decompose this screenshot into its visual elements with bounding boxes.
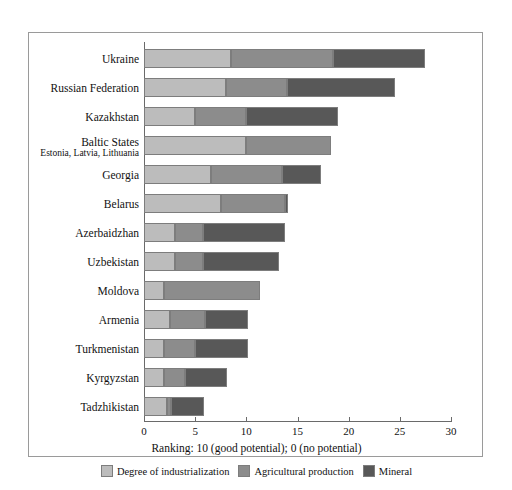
legend-swatch-icon xyxy=(363,465,375,477)
x-tick xyxy=(246,417,247,421)
bar-segment-min xyxy=(287,78,394,97)
x-axis-title: Ranking: 10 (good potential); 0 (no pote… xyxy=(29,442,484,454)
bar-segment-agr xyxy=(164,368,184,387)
x-tick xyxy=(349,417,350,421)
legend-label: Mineral xyxy=(379,466,412,477)
bar-row xyxy=(29,223,484,242)
bar-row xyxy=(29,281,484,300)
bar-segment-agr xyxy=(164,281,259,300)
x-tick-label: 0 xyxy=(131,425,157,437)
x-tick xyxy=(195,417,196,421)
chart-legend: Degree of industrializationAgricultural … xyxy=(29,465,484,477)
bar-segment-ind xyxy=(144,223,175,242)
bar-segment-min xyxy=(185,368,227,387)
legend-label: Agricultural production xyxy=(254,466,353,477)
bar-segment-ind xyxy=(144,107,195,126)
x-tick xyxy=(144,417,145,421)
bar-segment-agr xyxy=(211,165,283,184)
x-tick xyxy=(451,417,452,421)
bar-row xyxy=(29,136,484,155)
bar-row xyxy=(29,107,484,126)
bar-segment-ind xyxy=(144,136,246,155)
bar-segment-ind xyxy=(144,49,231,68)
bar-row xyxy=(29,49,484,68)
legend-item-min[interactable]: Mineral xyxy=(363,465,412,477)
bar-segment-agr xyxy=(231,49,333,68)
bar-segment-ind xyxy=(144,339,164,358)
bar-segment-min xyxy=(246,107,338,126)
x-tick-label: 15 xyxy=(285,425,311,437)
x-tick-label: 5 xyxy=(182,425,208,437)
bar-segment-min xyxy=(195,339,248,358)
bar-segment-min xyxy=(205,310,248,329)
bar-segment-min xyxy=(333,49,425,68)
legend-swatch-icon xyxy=(238,465,250,477)
x-tick-label: 10 xyxy=(233,425,259,437)
legend-item-ind[interactable]: Degree of industrialization xyxy=(101,465,230,477)
chart-figure: 051015202530 UkraineRussian FederationKa… xyxy=(28,32,483,457)
bar-segment-agr xyxy=(246,136,331,155)
bar-row xyxy=(29,397,484,416)
legend-item-agr[interactable]: Agricultural production xyxy=(238,465,353,477)
bar-segment-agr xyxy=(226,78,287,97)
x-tick-label: 30 xyxy=(438,425,464,437)
bar-segment-agr xyxy=(175,223,204,242)
bar-row xyxy=(29,165,484,184)
x-axis-line xyxy=(144,421,452,422)
legend-swatch-icon xyxy=(101,465,113,477)
bar-segment-agr xyxy=(175,252,204,271)
bar-segment-ind xyxy=(144,397,167,416)
bar-segment-ind xyxy=(144,368,164,387)
x-tick-label: 25 xyxy=(387,425,413,437)
bar-segment-ind xyxy=(144,252,175,271)
x-tick xyxy=(298,417,299,421)
bar-row xyxy=(29,310,484,329)
bar-segment-min xyxy=(171,397,205,416)
bar-row xyxy=(29,78,484,97)
bar-segment-min xyxy=(203,223,285,242)
bar-row xyxy=(29,194,484,213)
bar-segment-agr xyxy=(164,339,195,358)
x-tick-label: 20 xyxy=(336,425,362,437)
bar-segment-ind xyxy=(144,281,164,300)
bar-row xyxy=(29,252,484,271)
bar-segment-min xyxy=(282,165,321,184)
bar-row xyxy=(29,339,484,358)
bar-segment-ind xyxy=(144,78,226,97)
x-tick xyxy=(400,417,401,421)
bar-segment-ind xyxy=(144,310,170,329)
bar-segment-min xyxy=(285,194,288,213)
bar-segment-min xyxy=(203,252,279,271)
bar-segment-agr xyxy=(170,310,206,329)
bar-row xyxy=(29,368,484,387)
legend-label: Degree of industrialization xyxy=(117,466,230,477)
bar-segment-ind xyxy=(144,194,221,213)
plot-area: 051015202530 UkraineRussian FederationKa… xyxy=(29,33,484,458)
bar-segment-agr xyxy=(221,194,285,213)
bar-segment-ind xyxy=(144,165,211,184)
bar-segment-agr xyxy=(195,107,246,126)
